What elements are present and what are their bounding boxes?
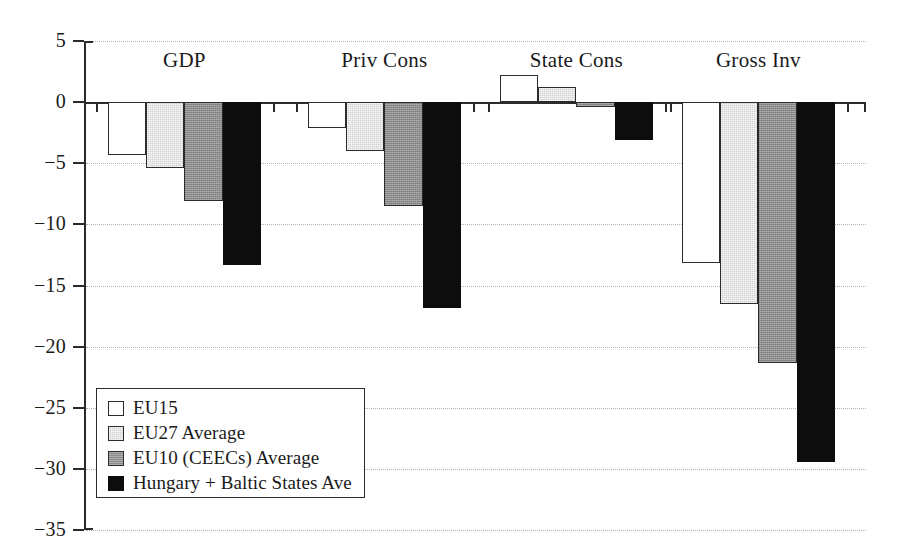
y-axis-tick-label: −25 xyxy=(4,397,66,417)
legend-swatch-icon xyxy=(108,426,124,441)
bar xyxy=(615,102,653,140)
bar xyxy=(423,102,461,307)
legend-item-label: Hungary + Baltic States Ave xyxy=(133,473,352,493)
group-label: GDP xyxy=(94,48,274,72)
legend-swatch-icon xyxy=(108,401,124,416)
y-axis-tick-label: −10 xyxy=(4,213,66,233)
y-axis-tick xyxy=(73,101,84,103)
bar xyxy=(384,102,422,206)
legend-item: EU27 Average xyxy=(108,421,364,445)
bar-chart: 50−5−10−15−20−25−30−35 GDPPriv ConsState… xyxy=(0,0,898,549)
bar xyxy=(500,75,538,102)
y-axis-tick xyxy=(73,162,84,164)
bar xyxy=(184,102,222,201)
legend-item-label: EU27 Average xyxy=(133,423,245,443)
bar xyxy=(346,102,384,151)
legend-item-label: EU10 (CEECs) Average xyxy=(133,448,319,468)
legend-swatch-icon xyxy=(108,476,124,491)
y-axis-tick xyxy=(73,40,84,42)
y-axis-tick xyxy=(73,529,84,531)
bar xyxy=(223,102,261,265)
y-axis-tick-label: −35 xyxy=(4,519,66,539)
y-axis-tick xyxy=(73,346,84,348)
bar xyxy=(720,102,758,304)
bar xyxy=(797,102,835,461)
legend-item: EU10 (CEECs) Average xyxy=(108,446,364,470)
chart-legend: EU15 EU27 Average EU10 (CEECs) Average H… xyxy=(96,388,365,498)
y-axis-tick xyxy=(73,468,84,470)
y-axis-tick-label: 5 xyxy=(4,30,66,50)
y-axis-tick-label: −15 xyxy=(4,275,66,295)
y-axis-tick-label: −20 xyxy=(4,336,66,356)
y-axis-tick xyxy=(73,223,84,225)
y-axis-tick-label: 0 xyxy=(4,91,66,111)
group-label: State Cons xyxy=(486,48,666,72)
legend-item-label: EU15 xyxy=(133,398,178,418)
legend-item: EU15 xyxy=(108,396,364,420)
y-axis-tick xyxy=(73,407,84,409)
bar xyxy=(758,102,796,362)
y-axis-tick-label: −30 xyxy=(4,458,66,478)
bar xyxy=(576,102,614,107)
legend-swatch-icon xyxy=(108,451,124,466)
legend-item: Hungary + Baltic States Ave xyxy=(108,471,364,495)
bar xyxy=(146,102,184,168)
y-axis-tick xyxy=(73,285,84,287)
bar xyxy=(108,102,146,155)
group-label: Gross Inv xyxy=(668,48,848,72)
group-label: Priv Cons xyxy=(294,48,474,72)
gridline xyxy=(86,530,866,532)
y-axis-tick-label: −5 xyxy=(4,152,66,172)
bar xyxy=(308,102,346,128)
bar xyxy=(538,87,576,102)
bar xyxy=(682,102,720,263)
